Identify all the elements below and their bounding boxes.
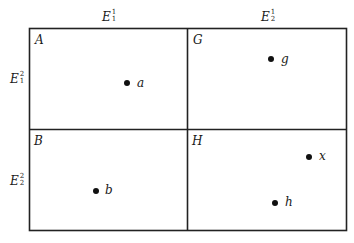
row-header-2-base: E xyxy=(10,174,19,188)
column-header-1: E11 xyxy=(102,10,116,24)
cell-label-g: G xyxy=(193,34,203,46)
point-dot-x xyxy=(306,154,312,160)
point-label-a: a xyxy=(137,77,144,89)
row-header-1-sub: 1 xyxy=(20,78,24,85)
point-label-x: x xyxy=(319,150,326,162)
grid-lines xyxy=(0,0,354,243)
cell-label-a: A xyxy=(35,34,44,46)
point-label-h: h xyxy=(285,196,293,208)
column-header-2: E12 xyxy=(261,10,275,24)
partition-diagram: E11 E12 E21 E22 A a G g B b H x h xyxy=(0,0,354,243)
point-label-g: g xyxy=(281,53,289,65)
row-header-2-sub: 2 xyxy=(20,180,24,187)
row-header-2: E22 xyxy=(10,174,24,188)
point-dot-g xyxy=(268,56,274,62)
cell-label-h: H xyxy=(192,135,202,147)
point-dot-h xyxy=(272,200,278,206)
column-header-2-sub: 2 xyxy=(271,16,275,23)
row-header-1: E21 xyxy=(10,72,24,86)
point-dot-b xyxy=(93,188,99,194)
column-header-2-base: E xyxy=(261,10,270,24)
cell-label-b: B xyxy=(34,135,43,147)
column-header-1-sub: 1 xyxy=(112,16,116,23)
point-label-b: b xyxy=(105,184,113,196)
point-dot-a xyxy=(124,80,130,86)
row-header-1-base: E xyxy=(10,72,19,86)
column-header-1-base: E xyxy=(102,10,111,24)
